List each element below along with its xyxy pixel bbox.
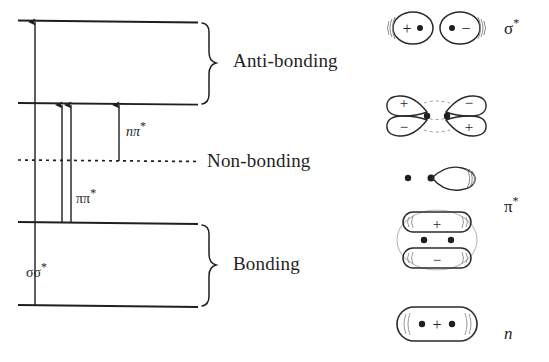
category-label-anti-bonding: Anti-bonding (233, 50, 338, 72)
orbital-pictogram-pi: + − (380, 206, 495, 274)
brace-anti-bonding (202, 23, 216, 104)
pi-bonding-level (18, 222, 198, 224)
orbital-row-n: n (380, 158, 549, 198)
brace-bonding (202, 225, 216, 306)
transition-label-pi-pi-star: ππ* (76, 186, 96, 207)
category-label-bonding: Bonding (233, 253, 300, 275)
transition-label-sigma-sigma-star-text: σσ (26, 265, 41, 280)
orbital-row-pi-star: + − − + π* (380, 86, 549, 148)
transition-label-sigma-sigma-star-asterisk: * (41, 260, 47, 274)
pi-antibonding-level (18, 103, 198, 105)
transition-label-n-pi-star: nπ* (126, 119, 146, 140)
orbital-pictogram-sigma: + (380, 300, 495, 350)
svg-text:−: − (465, 95, 473, 111)
orbital-row-pi: + − π (380, 206, 549, 274)
orbital-pictogram-n (380, 158, 495, 198)
orbital-symbol-sigma-star-text: σ (504, 19, 513, 38)
svg-text:−: − (461, 20, 470, 37)
transition-label-n-pi-star-text: nπ (126, 124, 140, 139)
svg-text:+: + (465, 119, 473, 135)
transition-label-pi-pi-star-text: ππ (76, 191, 90, 206)
svg-text:+: + (432, 316, 441, 333)
svg-text:+: + (400, 95, 408, 111)
orbital-row-sigma: + σ (380, 300, 549, 350)
svg-text:−: − (400, 119, 408, 135)
transition-label-n-pi-star-asterisk: * (140, 119, 146, 133)
orbital-pictogram-pi-star: + − − + (380, 86, 495, 148)
mo-energy-diagram-figure: Anti-bonding Non-bonding Bonding nπ* ππ*… (0, 0, 549, 362)
transition-label-sigma-sigma-star: σσ* (26, 260, 47, 281)
orbital-row-sigma-star: + − σ* (380, 2, 549, 54)
sigma-bonding-level (18, 305, 198, 307)
svg-text:−: − (433, 252, 441, 268)
non-bonding-level (18, 160, 198, 162)
svg-text:+: + (402, 20, 411, 37)
orbital-symbol-sigma-star-asterisk: * (513, 16, 519, 30)
transition-label-pi-pi-star-asterisk: * (90, 186, 96, 200)
sigma-antibonding-level (18, 21, 198, 23)
orbital-symbol-sigma-star: σ* (504, 16, 519, 39)
category-label-non-bonding: Non-bonding (207, 150, 311, 172)
orbital-pictogram-sigma-star: + − (380, 2, 495, 54)
svg-text:+: + (433, 216, 441, 232)
